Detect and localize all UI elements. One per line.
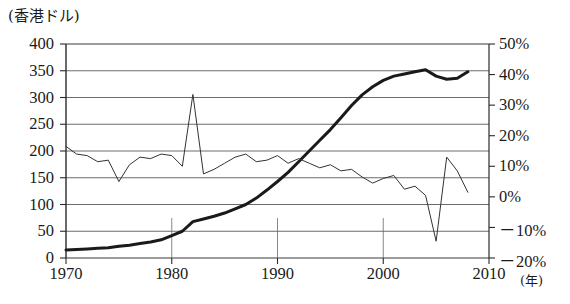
x-axis-tick-label: 1980 xyxy=(137,264,207,284)
x-axis-tick-label: 2000 xyxy=(348,264,418,284)
left-axis-tick-label: 200 xyxy=(8,141,54,161)
right-axis-tick-label: －10% xyxy=(499,217,569,241)
right-axis-tick-label: 50% xyxy=(499,34,569,54)
left-axis-tick-label: 250 xyxy=(8,114,54,134)
left-axis-tick-label: 400 xyxy=(8,34,54,54)
right-axis-tick-label: 40% xyxy=(499,65,569,85)
chart-plot-area xyxy=(0,0,570,304)
left-axis-tick-label: 50 xyxy=(8,221,54,241)
left-axis-unit-label: (香港ドル) xyxy=(8,4,80,25)
left-axis-tick-label: 100 xyxy=(8,195,54,215)
right-axis-tick-label: 10% xyxy=(499,156,569,176)
left-axis-tick-label: 300 xyxy=(8,88,54,108)
series-line-rate xyxy=(66,94,468,241)
x-axis-unit-label: (年) xyxy=(520,270,543,289)
right-axis-tick-label: 20% xyxy=(499,126,569,146)
right-axis-tick-label: 30% xyxy=(499,95,569,115)
x-axis-tick-label: 1990 xyxy=(243,264,313,284)
x-axis-tick-label: 1970 xyxy=(31,264,101,284)
x-axis-tick-label: 2010 xyxy=(454,264,524,284)
right-axis-tick-label: 0% xyxy=(499,187,569,207)
left-axis-tick-label: 350 xyxy=(8,61,54,81)
chart-figure: (香港ドル) 05010015020025030035040050%40%30%… xyxy=(0,0,570,304)
left-axis-tick-label: 150 xyxy=(8,168,54,188)
